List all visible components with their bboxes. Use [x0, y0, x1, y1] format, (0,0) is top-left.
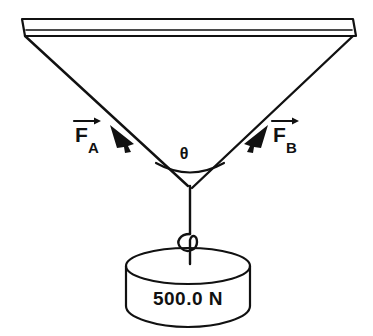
theta-symbol: θ — [180, 145, 189, 162]
cable-right — [192, 36, 353, 188]
physics-diagram: F A F B θ 500.0 N — [0, 0, 373, 336]
force-label-a: F A — [74, 118, 101, 157]
force-label-b: F B — [272, 118, 299, 157]
ceiling-beam — [22, 19, 356, 36]
force-a-letter: F — [75, 123, 88, 146]
force-b-subscript: B — [286, 139, 297, 156]
arrowhead-left — [110, 125, 134, 153]
force-b-letter: F — [273, 123, 286, 146]
cable-left — [25, 36, 188, 186]
force-a-subscript: A — [88, 139, 99, 156]
diagram-canvas: F A F B θ 500.0 N — [0, 0, 373, 336]
weight-value-label: 500.0 N — [153, 288, 223, 309]
